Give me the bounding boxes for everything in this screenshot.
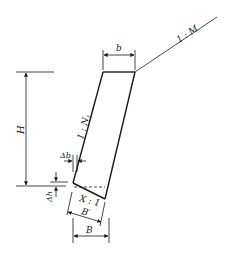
face-slope-label: 1 : N1 <box>75 113 92 141</box>
wall-diagram: 1 : M b H 1 : N1 Δb Δh X : 1 B′ <box>0 0 228 253</box>
base-drop-dimension: Δh <box>45 172 68 203</box>
height-dimension: H <box>15 72 66 186</box>
toe-offset-label: Δb <box>59 151 71 160</box>
top-width-dimension: b <box>103 43 135 70</box>
backfill-slope-label: 1 : M <box>175 23 201 45</box>
base-drop-label: Δh <box>45 191 54 203</box>
height-label: H <box>15 125 26 135</box>
base-width-label: B <box>85 225 93 235</box>
top-width-label: b <box>116 43 122 53</box>
wall-back-face <box>105 72 135 199</box>
backfill-slope-line <box>135 17 217 72</box>
base-width-dimension: B <box>73 218 109 243</box>
toe-offset-dimension: Δb <box>59 151 86 172</box>
